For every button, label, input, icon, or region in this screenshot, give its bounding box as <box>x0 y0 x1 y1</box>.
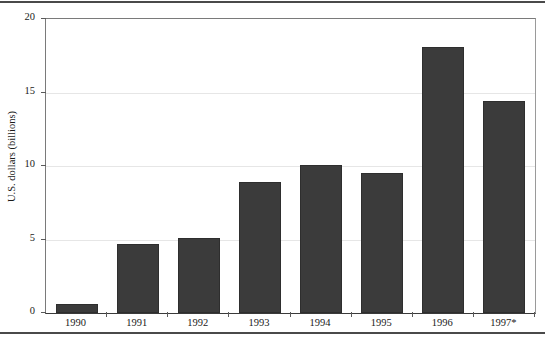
y-tick-mark <box>41 92 46 93</box>
x-tick-label: 1996 <box>412 317 473 328</box>
x-tick-label: 1990 <box>45 317 106 328</box>
bar <box>178 238 220 313</box>
x-tick-label: 1997* <box>473 317 534 328</box>
x-tick-label: 1992 <box>167 317 228 328</box>
x-tick-label: 1993 <box>228 317 289 328</box>
y-axis-title: U.S. dollars (billions) <box>2 0 20 312</box>
y-axis-title-text: U.S. dollars (billions) <box>6 111 17 202</box>
bar <box>483 101 525 313</box>
x-tick-label: 1994 <box>290 317 351 328</box>
bar <box>422 47 464 313</box>
y-tick-label: 20 <box>11 11 35 22</box>
y-tick-mark <box>41 18 46 19</box>
y-tick-mark <box>41 165 46 166</box>
y-tick-label: 0 <box>11 305 35 316</box>
bar <box>300 165 342 313</box>
x-tick-label: 1991 <box>106 317 167 328</box>
y-tick-mark <box>41 312 46 313</box>
x-tick-label: 1995 <box>351 317 412 328</box>
bar <box>239 182 281 313</box>
plot-area <box>45 18 536 314</box>
x-tick-mark <box>534 312 535 317</box>
y-tick-label: 5 <box>11 232 35 243</box>
bar-chart-figure: U.S. dollars (billions) 05101520 1990199… <box>0 0 545 341</box>
y-tick-mark <box>41 239 46 240</box>
y-tick-label: 10 <box>11 158 35 169</box>
bar <box>361 173 403 313</box>
bar <box>117 244 159 313</box>
bar <box>56 304 98 313</box>
y-tick-label: 15 <box>11 85 35 96</box>
